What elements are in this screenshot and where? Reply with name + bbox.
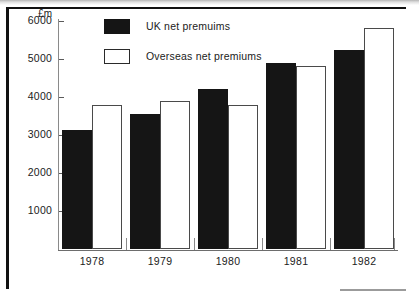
bar-1978-uk <box>62 130 92 249</box>
x-axis-label-1978: 1978 <box>60 255 124 267</box>
bar-1978-overseas <box>92 105 122 249</box>
bar-1982-overseas <box>364 28 394 249</box>
bar-1979-uk <box>130 114 160 249</box>
y-axis-tick-label: 6000 <box>6 14 52 26</box>
x-axis-line <box>58 250 398 251</box>
bar-1979-overseas <box>160 101 190 249</box>
x-axis-tick <box>394 238 395 250</box>
x-axis-tick <box>262 238 263 250</box>
x-axis-label-1982: 1982 <box>332 255 396 267</box>
y-axis-tick <box>59 59 64 60</box>
legend-label-uk: UK net premuims <box>146 20 230 32</box>
legend-swatch-filled-square-icon <box>104 19 130 34</box>
bar-1980-overseas <box>228 105 258 249</box>
y-axis-tick-label: 1000 <box>6 204 52 216</box>
legend-label-overseas: Overseas net premiums <box>146 50 262 62</box>
x-axis-tick <box>58 238 59 250</box>
x-axis-label-1980: 1980 <box>196 255 260 267</box>
x-axis-tick <box>330 238 331 250</box>
y-axis-tick-label: 4000 <box>6 90 52 102</box>
y-axis-tick <box>59 97 64 98</box>
bar-1982-uk <box>334 50 364 250</box>
y-axis-tick-label: 2000 <box>6 166 52 178</box>
legend-swatch-outlined-square-icon <box>104 49 130 64</box>
bar-1981-uk <box>266 63 296 249</box>
bottom-rule <box>340 289 406 291</box>
x-axis-tick <box>126 238 127 250</box>
x-axis-label-1981: 1981 <box>264 255 328 267</box>
bar-1981-overseas <box>296 66 326 249</box>
x-axis-label-1979: 1979 <box>128 255 192 267</box>
bar-chart-figure: £m 100020003000400050006000 197819791980… <box>0 0 419 296</box>
y-axis-tick-label: 3000 <box>6 128 52 140</box>
y-axis-tick-label: 5000 <box>6 52 52 64</box>
bar-1980-uk <box>198 89 228 249</box>
y-axis-tick <box>59 21 64 22</box>
legend-item-overseas: Overseas net premiums <box>104 44 262 68</box>
x-axis-tick <box>194 238 195 250</box>
chart-legend: UK net premuims Overseas net premiums <box>104 14 262 74</box>
plot-area: £m 100020003000400050006000 197819791980… <box>0 0 419 296</box>
legend-item-uk: UK net premuims <box>104 14 262 38</box>
